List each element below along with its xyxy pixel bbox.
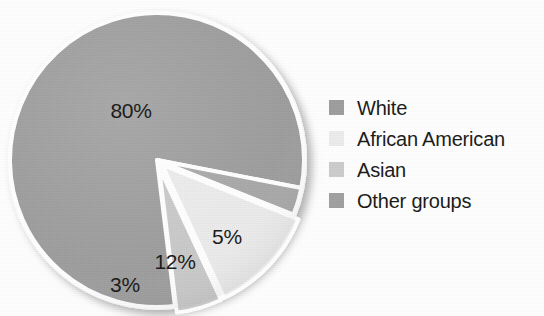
legend-swatch-icon-white	[329, 100, 344, 115]
pie-chart-figure: 80% 5% 12% 3% White African American Asi…	[0, 0, 544, 316]
legend-label-african-american: African American	[357, 129, 505, 149]
legend-item-white[interactable]: White	[329, 92, 544, 123]
legend-swatch-icon-asian	[329, 162, 344, 177]
pie-label-asian: 5%	[212, 225, 242, 249]
pie-label-white: 80%	[110, 99, 151, 123]
chart-legend: White African American Asian Other group…	[329, 92, 544, 216]
pie-label-other-groups: 3%	[110, 273, 140, 297]
legend-swatch-icon-other-groups	[329, 193, 344, 208]
legend-label-other-groups: Other groups	[357, 191, 471, 211]
legend-item-asian[interactable]: Asian	[329, 154, 544, 185]
legend-swatch-icon-african-american	[329, 131, 344, 146]
legend-label-white: White	[357, 98, 407, 118]
legend-item-african-american[interactable]: African American	[329, 123, 544, 154]
legend-label-asian: Asian	[357, 160, 406, 180]
pie-label-african-american: 12%	[154, 250, 195, 274]
legend-item-other-groups[interactable]: Other groups	[329, 185, 544, 216]
pie-chart-plot-area: 80% 5% 12% 3%	[0, 0, 330, 316]
